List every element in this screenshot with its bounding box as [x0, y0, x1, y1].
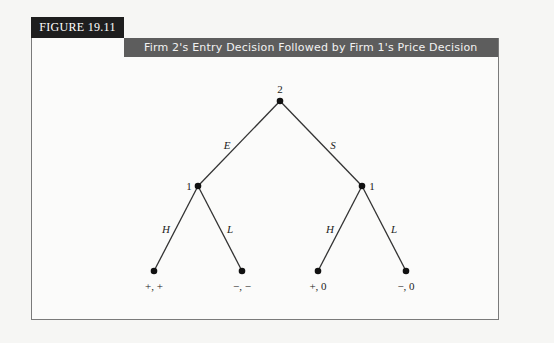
- left-node-player-label: 1: [186, 180, 192, 192]
- terminal-node-4: [403, 268, 410, 275]
- edge-right-H: [318, 186, 362, 271]
- edge-E: [198, 101, 280, 186]
- branch-label-left-L: L: [226, 223, 233, 235]
- branch-label-S: S: [330, 139, 336, 151]
- terminal-node-1: [151, 268, 158, 275]
- tree-edges: [154, 101, 406, 271]
- payoff-2: −, −: [233, 280, 251, 292]
- edge-left-H: [154, 186, 198, 271]
- game-tree: 2 E S 1 1 H L H L +, + −, − +, 0 −, 0: [0, 0, 554, 343]
- terminal-node-2: [239, 268, 246, 275]
- decision-node-right: [359, 183, 366, 190]
- payoff-1: +, +: [145, 280, 163, 292]
- right-node-player-label: 1: [369, 180, 375, 192]
- branch-label-left-H: H: [161, 223, 171, 235]
- root-player-label: 2: [277, 83, 283, 95]
- root-node: [277, 98, 284, 105]
- branch-label-right-H: H: [325, 223, 335, 235]
- branch-label-right-L: L: [390, 223, 397, 235]
- decision-node-left: [195, 183, 202, 190]
- terminal-node-3: [315, 268, 322, 275]
- edge-left-L: [198, 186, 242, 271]
- payoff-4: −, 0: [397, 280, 415, 292]
- edge-S: [280, 101, 362, 186]
- edge-right-L: [362, 186, 406, 271]
- branch-label-E: E: [223, 139, 231, 151]
- payoff-3: +, 0: [309, 280, 327, 292]
